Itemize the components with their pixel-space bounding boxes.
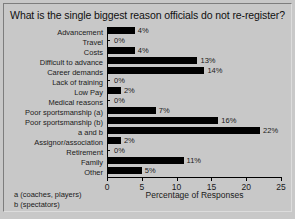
- category-label: Family: [0, 158, 103, 167]
- category-label: Low Pay: [0, 88, 103, 97]
- category-axis-labels: AdvancementTravelCostsDifficult to advan…: [0, 27, 103, 177]
- category-label: Poor sportsmanship (b): [0, 118, 103, 127]
- bar-row: 2%: [107, 137, 281, 147]
- x-tick: [246, 178, 247, 181]
- bar: [107, 40, 110, 41]
- bar: [107, 107, 156, 114]
- bar-row: 4%: [107, 27, 281, 37]
- x-tick: [211, 178, 212, 181]
- bar-value-label: 5%: [145, 166, 156, 175]
- bar-value-label: 0%: [114, 96, 125, 105]
- bar-row: 0%: [107, 97, 281, 107]
- bar-value-label: 0%: [114, 76, 125, 85]
- bar-value-label: 4%: [138, 46, 149, 55]
- bar: [107, 150, 110, 151]
- bar: [107, 117, 218, 124]
- bar-row: 2%: [107, 87, 281, 97]
- bar-value-label: 2%: [124, 86, 135, 95]
- bar-value-label: 2%: [124, 136, 135, 145]
- bar-value-label: 13%: [200, 56, 215, 65]
- category-label: Assignor/association: [0, 138, 103, 147]
- footnote-b: b (spectators): [14, 200, 82, 210]
- category-label: Travel: [0, 38, 103, 47]
- category-label: a and b: [0, 128, 103, 137]
- bar-value-label: 14%: [207, 66, 222, 75]
- bar: [107, 137, 121, 144]
- category-label: Difficult to advance: [0, 58, 103, 67]
- category-label: Retirement: [0, 148, 103, 157]
- bar-row: 16%: [107, 117, 281, 127]
- x-tick: [142, 178, 143, 181]
- bar: [107, 87, 121, 94]
- bar-value-label: 22%: [263, 126, 278, 135]
- bar-value-label: 11%: [187, 156, 201, 165]
- category-label: Advancement: [0, 28, 103, 37]
- bar: [107, 100, 110, 101]
- bar: [107, 127, 260, 134]
- bar: [107, 80, 110, 81]
- bar: [107, 157, 184, 164]
- x-tick: [107, 178, 108, 181]
- bar-row: 0%: [107, 37, 281, 47]
- category-label: Poor sportsmanship (a): [0, 108, 103, 117]
- x-tick: [177, 178, 178, 181]
- bar-value-label: 0%: [114, 36, 125, 45]
- plot-area: 4%0%4%13%14%0%2%0%7%16%22%2%0%11%5%: [107, 27, 281, 177]
- bar: [107, 27, 135, 34]
- category-label: Career demands: [0, 68, 103, 77]
- bar: [107, 67, 204, 74]
- bar-row: 13%: [107, 57, 281, 67]
- bar-value-label: 4%: [138, 26, 149, 35]
- bar: [107, 47, 135, 54]
- chart-footnotes: a (coaches, players) b (spectators): [14, 190, 82, 210]
- x-tick: [281, 178, 282, 181]
- bar-row: 11%: [107, 157, 281, 167]
- footnote-a: a (coaches, players): [14, 190, 82, 200]
- bar-value-label: 0%: [114, 146, 125, 155]
- bar-row: 7%: [107, 107, 281, 117]
- category-label: Medical reasons: [0, 98, 103, 107]
- bar-value-label: 7%: [159, 106, 170, 115]
- bar-row: 5%: [107, 167, 281, 177]
- category-label: Costs: [0, 48, 103, 57]
- x-axis-title: Percentage of Responses: [107, 190, 282, 200]
- bar-row: 4%: [107, 47, 281, 57]
- category-label: Other: [0, 168, 103, 177]
- bar-value-label: 16%: [221, 116, 236, 125]
- chart-title: What is the single biggest reason offici…: [0, 9, 295, 21]
- bar-row: 14%: [107, 67, 281, 77]
- category-label: Lack of training: [0, 78, 103, 87]
- bar: [107, 57, 197, 64]
- bar: [107, 167, 142, 174]
- chart-figure: What is the single biggest reason offici…: [0, 0, 295, 219]
